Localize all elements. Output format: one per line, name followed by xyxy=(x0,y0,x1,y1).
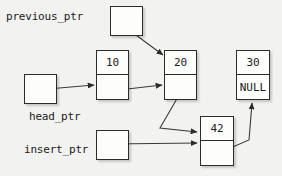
node-20-pointer xyxy=(165,75,196,99)
node-10-pointer xyxy=(97,75,128,99)
node-42[interactable]: 42 xyxy=(200,116,234,166)
node-20-value: 20 xyxy=(165,51,196,75)
node-42-pointer xyxy=(201,141,233,165)
insert-ptr-box[interactable] xyxy=(96,130,129,160)
node-30-value: 30 xyxy=(237,51,269,75)
insert-ptr-label: insert_ptr xyxy=(24,143,88,156)
node-10[interactable]: 10 xyxy=(96,50,129,100)
previous-ptr-label: previous_ptr xyxy=(6,10,83,23)
previous-ptr-box[interactable] xyxy=(110,6,143,36)
node-42-value: 42 xyxy=(201,117,233,141)
node-30[interactable]: 30 NULL xyxy=(236,50,270,100)
head-ptr-box[interactable] xyxy=(24,74,57,104)
linked-list-diagram: previous_ptr head_ptr insert_ptr 10 20 3… xyxy=(0,0,282,176)
node-10-value: 10 xyxy=(97,51,128,75)
node-20[interactable]: 20 xyxy=(164,50,197,100)
head-ptr-label: head_ptr xyxy=(29,110,80,123)
node-30-pointer: NULL xyxy=(237,75,269,99)
